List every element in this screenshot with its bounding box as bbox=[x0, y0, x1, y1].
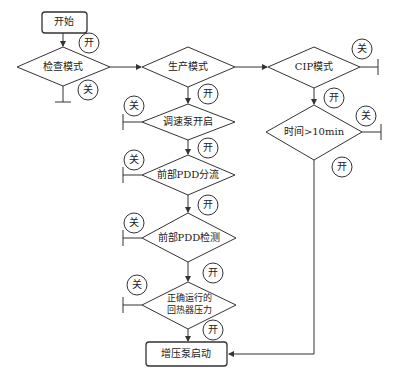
off-label: 关 bbox=[129, 154, 139, 167]
start-label: 开始 bbox=[54, 16, 74, 29]
pdd-divert-label: 前部PDD分流 bbox=[157, 169, 220, 182]
pdd-detect-label: 前部PDD检测 bbox=[158, 232, 221, 245]
pressure-label-line1: 正确运行的 bbox=[167, 293, 212, 304]
booster-start-label: 增压泵启动 bbox=[161, 348, 211, 361]
cip-mode-label: CIP模式 bbox=[295, 61, 333, 74]
time-check-label: 时间>10min bbox=[284, 126, 344, 139]
off-label: 关 bbox=[129, 100, 139, 113]
off-label: 关 bbox=[132, 279, 142, 292]
pressure-label-line2: 回热器压力 bbox=[167, 305, 212, 316]
on-label: 开 bbox=[84, 37, 94, 50]
off-label: 关 bbox=[129, 217, 139, 230]
production-mode-label: 生产模式 bbox=[168, 61, 208, 74]
check-mode-label: 检查模式 bbox=[43, 61, 83, 74]
flowchart-canvas bbox=[0, 0, 394, 381]
on-label: 开 bbox=[208, 267, 218, 280]
off-label: 关 bbox=[361, 110, 371, 123]
on-label: 开 bbox=[203, 142, 213, 155]
on-label: 开 bbox=[337, 161, 347, 174]
off-label: 关 bbox=[357, 43, 367, 56]
off-label: 关 bbox=[83, 84, 93, 97]
on-label: 开 bbox=[203, 88, 213, 101]
pump-on-label: 调速泵开启 bbox=[163, 116, 213, 129]
on-label: 开 bbox=[329, 92, 339, 105]
on-label: 开 bbox=[208, 324, 218, 337]
on-label: 开 bbox=[203, 199, 213, 212]
